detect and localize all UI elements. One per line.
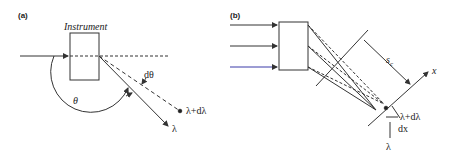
instrument-box — [70, 33, 99, 80]
instrument-box-b — [279, 22, 308, 70]
focus-point — [384, 106, 388, 110]
lambda-plus-label-a: λ+dλ — [186, 106, 206, 116]
sc-label: sc — [386, 55, 393, 68]
solid-ray-1 — [308, 25, 376, 110]
panel-a-diagram — [20, 33, 182, 126]
x-axis-label: x — [432, 66, 436, 76]
figure: (a) Instrument θ dθ λ+dλ λ (b) sc x λ+dλ… — [0, 0, 457, 162]
lambda-label-b: λ — [386, 142, 391, 152]
panel-a-label: (a) — [18, 12, 28, 20]
dtheta-label: dθ — [144, 70, 154, 80]
theta-arc — [51, 56, 128, 112]
panel-b-label: (b) — [230, 12, 240, 20]
instrument-label: Instrument — [64, 22, 107, 32]
dx-label: dx — [398, 124, 408, 134]
dx-dimension — [392, 106, 400, 118]
panel-b-diagram — [230, 22, 428, 138]
lambda-label-a: λ — [172, 124, 177, 134]
solid-ray-3 — [308, 67, 376, 110]
dashed-ray-1 — [308, 25, 384, 104]
solid-ray-2 — [308, 46, 376, 110]
ray-lambda-plus — [99, 56, 180, 111]
ray-lambda — [99, 56, 168, 126]
dtheta-arrow-lower — [126, 93, 132, 96]
ray-endpoint — [178, 109, 182, 113]
dashed-ray-2 — [308, 46, 384, 104]
theta-label: θ — [73, 96, 78, 106]
lambda-plus-label-b: λ+dλ — [400, 112, 420, 122]
